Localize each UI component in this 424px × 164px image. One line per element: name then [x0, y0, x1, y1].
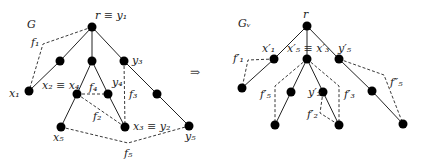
- node: [238, 84, 247, 93]
- label-y4: y₄: [111, 76, 123, 89]
- node: [56, 57, 65, 66]
- label-x5p-x3p: x′₅ ≡ x′₃: [287, 42, 329, 55]
- implies-arrow: ⇒: [190, 65, 200, 79]
- label-y2p: y′₂: [307, 86, 321, 99]
- edge: [339, 59, 372, 91]
- node-y4: [104, 90, 113, 99]
- node-x1: [25, 87, 34, 96]
- edge: [372, 91, 403, 124]
- edge: [275, 92, 291, 125]
- graph-gv: Gᵥ r x′₁ f′₁ x′₅ ≡ x′₃ y′₅ f′₅ y′₂ f′₃ f…: [232, 8, 408, 130]
- label-root: r: [303, 8, 309, 21]
- label-y5p: y′₅: [337, 42, 352, 55]
- node-root: [303, 22, 312, 31]
- node-y5p: [335, 55, 344, 64]
- node: [368, 87, 377, 96]
- label-x1p: x′₁: [262, 42, 275, 55]
- graph-g: G r ≡ y₁ f₁ x₁ x₂ ≡ x₄ f₄ y₄ y₃ f₃ f₂ x₃…: [9, 9, 196, 160]
- node: [399, 120, 408, 129]
- node-x1p: [270, 55, 279, 64]
- edge: [242, 59, 274, 88]
- label-x1: x₁: [9, 87, 20, 100]
- node: [287, 88, 296, 97]
- label-x5: x₅: [53, 131, 64, 144]
- node-x3-y2: [121, 123, 130, 132]
- node-x5p-x3p: [303, 55, 312, 64]
- label-y3: y₃: [131, 54, 143, 67]
- node-root: [88, 23, 97, 32]
- node-y3: [120, 57, 129, 66]
- node: [88, 57, 97, 66]
- label-f3: f₃: [128, 88, 137, 101]
- label-f5p: f′₅: [259, 88, 272, 101]
- label-f2p: f′₂: [306, 108, 318, 121]
- label-y5: y₅: [184, 130, 196, 143]
- graph-title-gv: Gᵥ: [238, 17, 251, 30]
- label-x3-y2: x₃ ≡ y₂: [133, 120, 170, 133]
- label-f2: f₂: [92, 110, 101, 123]
- graph-transformation-diagram: G r ≡ y₁ f₁ x₁ x₂ ≡ x₄ f₄ y₄ y₃ f₃ f₂ x₃…: [0, 0, 424, 164]
- label-f1: f₁: [30, 36, 39, 49]
- label-f4: f₄: [88, 81, 97, 94]
- label-f1p: f′₁: [232, 52, 244, 65]
- label-x2-x4: x₂ ≡ x₄: [42, 79, 79, 92]
- label-f5: f₅: [123, 147, 133, 160]
- edge: [61, 94, 77, 127]
- edge: [108, 94, 125, 127]
- node: [271, 121, 280, 130]
- label-f5pp: f″₅: [389, 76, 403, 89]
- label-f3p: f′₃: [343, 88, 355, 101]
- dashed-edge-f3: [124, 61, 125, 127]
- edge: [92, 27, 124, 61]
- node: [153, 90, 162, 99]
- label-root: r ≡ y₁: [95, 9, 127, 22]
- graph-title-g: G: [27, 18, 36, 31]
- edge: [291, 59, 307, 92]
- node: [335, 121, 344, 130]
- edge: [323, 92, 339, 125]
